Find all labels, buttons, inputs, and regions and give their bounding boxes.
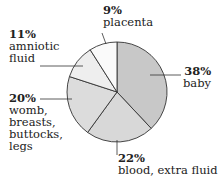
label-blood: 22% blood, extra fluid bbox=[118, 152, 218, 176]
label-baby: 38% baby bbox=[183, 65, 211, 89]
label-placenta: 9% placenta bbox=[103, 4, 153, 28]
label-womb: 20% womb, breasts, buttocks, legs bbox=[9, 92, 63, 152]
label-amniotic: 11% amniotic fluid bbox=[9, 28, 60, 64]
leader-line bbox=[102, 33, 106, 44]
